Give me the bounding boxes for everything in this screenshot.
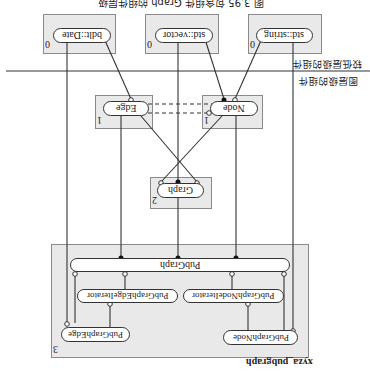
std-string-label: std::string [264,30,304,41]
edge-component: Edge [103,101,149,116]
pubgraph-edge-label: PubGraphEdge [68,330,123,340]
pubgraph-edge-iterator-label: PubGraphEdgeIterator [87,291,168,301]
package-name: xyza_pubgraph [246,357,313,368]
graph-component: Graph [157,183,204,198]
pubgraph-label: PubGraph [160,260,201,271]
std-vector-label: std::vector [163,30,205,41]
pubgraph-component: PubGraph [70,258,290,272]
std-vector-level: 0 [147,39,152,50]
graph-level: 2 [152,195,157,206]
graph-label: Graph [168,185,193,196]
pubgraph-node-component: PubGraphNode [223,330,298,345]
bdlt-date-label: bdlt::Date [62,30,102,41]
edge-level: 1 [97,115,102,126]
pubgraph-node-label: PubGraphNode [233,333,289,343]
std-string-component: std::string [256,28,313,43]
component-diagram: bdlt::Date std::vector std::string Edge … [0,0,370,373]
pubgraph-node-iterator-label: PubGraphNodeIterator [192,291,274,301]
pubgraph-edge-component: PubGraphEdge [61,327,130,342]
pubgraph-edge-iterator-component: PubGraphEdgeIterator [77,289,178,303]
pubgraph-node-iterator-component: PubGraphNodeIterator [183,289,284,303]
bdlt-date-component: bdlt::Date [53,28,111,43]
separator-label-lower-level: 较低层级的组件 [292,58,362,72]
std-string-level: 0 [250,39,255,50]
edge-label: Edge [116,103,137,114]
bdlt-date-level: 0 [45,39,50,50]
figure-caption: 图 3.95 包含组件 Graph 的组件层级 [98,0,264,11]
separator-label-graph-level: 图层级的组件 [298,75,358,89]
node-level: 1 [204,115,209,126]
package-level: 3 [53,344,58,355]
std-vector-component: std::vector [155,28,213,43]
node-label: Node [223,103,245,114]
node-component: Node [210,101,258,116]
